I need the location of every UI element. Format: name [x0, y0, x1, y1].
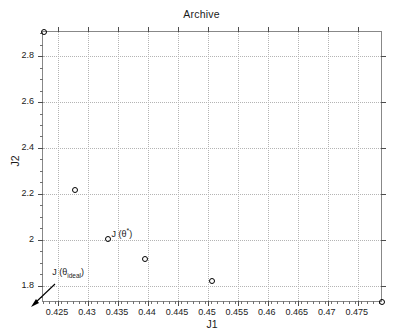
tick-x-minor: [139, 301, 140, 304]
data-point-marker: [379, 299, 385, 305]
annotation-ideal-main: J (θ: [52, 267, 67, 277]
tick-x-minor: [373, 301, 374, 304]
tick-x-minor: [109, 301, 110, 304]
annotation-star-main: J (θ: [112, 229, 127, 239]
tick-x-top: [328, 27, 329, 32]
arrow-icon: [28, 282, 58, 308]
gridline-vertical: [268, 32, 269, 301]
tick-x-minor: [121, 301, 122, 304]
tick-x-minor: [265, 301, 266, 304]
gridline-vertical: [118, 32, 119, 301]
tick-x-minor: [91, 301, 92, 304]
tick-y-minor: [40, 114, 43, 115]
tick-y-minor: [40, 182, 43, 183]
tick-y-minor: [40, 79, 43, 80]
tick-x-minor: [319, 301, 320, 304]
x-tick-label: 0.465: [286, 307, 309, 317]
tick-x-minor: [283, 301, 284, 304]
tick-x-minor: [151, 301, 152, 304]
tick-x-minor: [97, 301, 98, 304]
tick-x-minor: [103, 301, 104, 304]
tick-x-minor: [175, 301, 176, 304]
x-tick-label: 0.455: [226, 307, 249, 317]
x-tick-label: 0.43: [78, 307, 96, 317]
tick-x-minor: [85, 301, 86, 304]
y-tick-label: 2.4: [0, 142, 34, 152]
gridline-vertical: [148, 32, 149, 301]
tick-y-right: [381, 102, 386, 103]
tick-x-minor: [241, 301, 242, 304]
tick-y-minor: [40, 45, 43, 46]
tick-x-minor: [187, 301, 188, 304]
tick-x-top: [268, 27, 269, 32]
annotation-j-theta-star: J (θ*): [112, 227, 133, 239]
tick-y-minor: [40, 228, 43, 229]
data-point-marker: [209, 278, 215, 284]
tick-x-minor: [181, 301, 182, 304]
plot-area: [42, 31, 382, 302]
tick-x-minor: [223, 301, 224, 304]
data-point-marker: [72, 187, 78, 193]
tick-y-minor: [40, 159, 43, 160]
annotation-ideal-close: ): [81, 267, 84, 277]
gridline-horizontal: [43, 286, 381, 287]
tick-x-top: [208, 27, 209, 32]
tick-y-minor: [40, 125, 43, 126]
tick-x-minor: [343, 301, 344, 304]
x-tick-label: 0.46: [258, 307, 276, 317]
tick-y: [38, 194, 43, 195]
x-tick-label: 0.445: [166, 307, 189, 317]
tick-x-minor: [229, 301, 230, 304]
tick-x-minor: [337, 301, 338, 304]
tick-x-minor: [307, 301, 308, 304]
tick-x-top: [238, 27, 239, 32]
tick-x-minor: [61, 301, 62, 304]
tick-x-top: [148, 27, 149, 32]
x-tick-label: 0.47: [318, 307, 336, 317]
annotation-star-close: ): [129, 229, 132, 239]
tick-x-top: [88, 27, 89, 32]
y-tick-label: 2.2: [0, 188, 34, 198]
tick-x-minor: [331, 301, 332, 304]
tick-x-minor: [205, 301, 206, 304]
data-point-marker: [105, 236, 111, 242]
tick-x-minor: [211, 301, 212, 304]
gridline-vertical: [58, 32, 59, 301]
tick-x-minor: [247, 301, 248, 304]
gridline-horizontal: [43, 148, 381, 149]
data-point-marker: [41, 29, 47, 35]
tick-x-minor: [271, 301, 272, 304]
tick-x-top: [58, 27, 59, 32]
gridline-horizontal: [43, 240, 381, 241]
tick-x: [298, 301, 299, 306]
y-tick-label: 2.6: [0, 96, 34, 106]
chart-title: Archive: [0, 8, 403, 20]
tick-x-minor: [169, 301, 170, 304]
tick-x-minor: [193, 301, 194, 304]
tick-y-minor: [40, 205, 43, 206]
tick-x: [118, 301, 119, 306]
tick-x-top: [118, 27, 119, 32]
tick-y-minor: [40, 217, 43, 218]
tick-x: [208, 301, 209, 306]
tick-x-minor: [289, 301, 290, 304]
tick-x-minor: [361, 301, 362, 304]
tick-x-minor: [253, 301, 254, 304]
tick-x: [88, 301, 89, 306]
tick-y: [38, 148, 43, 149]
tick-x: [358, 301, 359, 306]
x-tick-label: 0.45: [198, 307, 216, 317]
gridline-horizontal: [43, 194, 381, 195]
tick-x-minor: [235, 301, 236, 304]
tick-x-minor: [313, 301, 314, 304]
tick-y: [38, 56, 43, 57]
gridline-horizontal: [43, 56, 381, 57]
tick-x-top: [358, 27, 359, 32]
annotation-j-theta-ideal: J (θideal): [52, 267, 84, 279]
x-tick-label: 0.435: [106, 307, 129, 317]
tick-x: [58, 301, 59, 306]
tick-x-minor: [157, 301, 158, 304]
tick-y-minor: [40, 274, 43, 275]
tick-y: [38, 102, 43, 103]
gridline-vertical: [298, 32, 299, 301]
